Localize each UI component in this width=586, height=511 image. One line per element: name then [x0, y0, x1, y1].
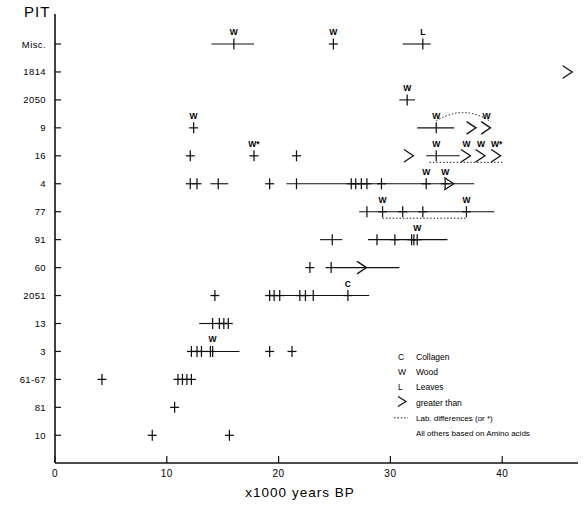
data-point-label: W [413, 223, 422, 233]
data-point-label: W [230, 27, 239, 37]
greater-than-marker [482, 122, 491, 134]
legend-symbol: W [398, 367, 406, 377]
data-row: C [210, 279, 369, 302]
legend-label: Wood [416, 367, 438, 377]
data-row: W [399, 83, 415, 106]
data-point-label: W [483, 111, 492, 121]
legend-label: greater than [416, 398, 462, 408]
y-axis-tick-label: 13 [35, 318, 46, 329]
x-axis-tick-label: 40 [496, 468, 508, 479]
data-point-label: W [477, 139, 486, 149]
data-row [97, 374, 195, 385]
chart-container: PITx1000 years BP010203040Misc.181420509… [0, 0, 586, 511]
data-row [170, 402, 179, 413]
data-point-label: W* [491, 139, 503, 149]
x-axis-tick-label: 30 [384, 468, 396, 479]
y-axis-tick-label: 2050 [23, 94, 46, 105]
y-axis-tick-label: 10 [35, 430, 46, 441]
legend-symbol: L [398, 382, 403, 392]
y-axis-title: PIT [24, 3, 50, 20]
y-axis-tick-label: 3 [40, 346, 46, 357]
y-axis-tick-label: 4 [40, 178, 46, 189]
y-axis-tick-label: 60 [35, 262, 46, 273]
scatter-plot: PITx1000 years BP010203040Misc.181420509… [0, 0, 586, 511]
greater-than-marker [461, 150, 470, 162]
data-row: WWW [189, 111, 491, 134]
y-axis-tick-label: 77 [35, 206, 46, 217]
data-point-label: W [462, 139, 471, 149]
greater-than-marker [492, 150, 501, 162]
data-point-label: W [422, 167, 431, 177]
data-point-label: W [432, 111, 441, 121]
legend-label: Leaves [416, 382, 443, 392]
y-axis-tick-label: 61-67 [20, 374, 46, 385]
legend-label: Lab. differences (or *) [416, 414, 493, 423]
y-axis-tick-label: 81 [35, 402, 46, 413]
x-axis-title: x1000 years BP [245, 485, 354, 500]
greater-than-marker [467, 122, 476, 134]
legend-greater-than-symbol [398, 397, 406, 407]
legend-symbol: C [398, 352, 404, 362]
y-axis-tick-label: Misc. [22, 39, 46, 50]
data-point-label: W [190, 111, 199, 121]
greater-than-marker [476, 150, 485, 162]
data-row [148, 430, 234, 441]
y-axis-tick-label: 9 [40, 122, 46, 133]
data-row [563, 66, 572, 78]
data-row [199, 318, 233, 329]
y-axis-tick-label: 16 [35, 150, 46, 161]
y-axis-tick-label: 2051 [23, 290, 46, 301]
y-axis-tick-label: 1814 [23, 66, 46, 77]
x-axis-tick-label: 20 [273, 468, 285, 479]
greater-than-marker [404, 150, 413, 162]
data-row [305, 262, 399, 274]
data-row: W*WWWW* [186, 139, 503, 163]
data-point-label: L [420, 27, 425, 37]
data-point-label: C [345, 279, 351, 289]
y-axis-tick-label: 91 [35, 234, 46, 245]
data-point-label: W [462, 195, 471, 205]
data-row: WW [359, 195, 494, 219]
x-axis-tick-label: 10 [161, 468, 173, 479]
data-point-label: W [379, 195, 388, 205]
data-point-label: W [432, 139, 441, 149]
data-point-label: W* [248, 139, 260, 149]
data-point-label: W [209, 334, 218, 344]
data-row: WW [186, 167, 474, 190]
greater-than-marker [563, 66, 572, 78]
data-row: W [320, 223, 447, 246]
data-point-label: W [403, 83, 412, 93]
x-axis-tick-label: 0 [52, 468, 58, 479]
data-point-label: W [329, 27, 338, 37]
legend-label: All others based on Amino acids [416, 429, 530, 438]
data-point-label: W [441, 167, 450, 177]
data-row: WWL [212, 27, 431, 50]
legend-label: Collagen [416, 352, 450, 362]
data-row: W [187, 334, 297, 357]
